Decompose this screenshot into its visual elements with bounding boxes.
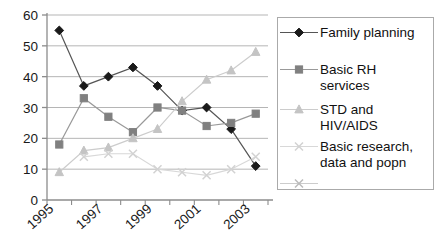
series-1-point-2 (105, 113, 112, 120)
series-1-point-0 (56, 141, 63, 148)
x-axis-tick-label: 1999 (122, 201, 154, 232)
legend-item-3[interactable]: Basic research, data and popn (278, 139, 433, 170)
series-0-point-3 (129, 63, 138, 72)
series-2-point-7 (227, 66, 235, 74)
series-0-point-2 (104, 72, 113, 81)
legend-item-2[interactable]: STD and HIV/AIDS (278, 102, 433, 133)
series-3-point-7 (252, 153, 260, 161)
legend-label-1: Basic RH services (320, 62, 376, 93)
series-1-point-4 (154, 104, 161, 111)
series-2-point-5 (178, 97, 186, 105)
legend-label-3: Basic research, data and popn (320, 139, 413, 170)
chart-legend: Family planningBasic RH servicesSTD and … (277, 17, 434, 190)
series-2-point-8 (252, 47, 260, 55)
series-line-2 (59, 52, 255, 172)
series-1-point-7 (228, 119, 235, 126)
y-axis-tick-label: 20 (23, 131, 38, 146)
legend-label-0: Family planning (320, 25, 415, 41)
legend-item-4[interactable] (278, 176, 433, 191)
x-axis-tick-label: 1995 (24, 201, 56, 232)
y-axis-tick-label: 10 (23, 162, 38, 177)
legend-marker-icon-0 (278, 25, 320, 40)
x-axis-tick-label: 1997 (73, 201, 105, 232)
legend-marker-icon-4 (278, 176, 320, 191)
legend-marker-icon-1 (278, 62, 320, 77)
y-axis-tick-label: 50 (23, 39, 38, 54)
x-axis-tick-label: 2003 (220, 201, 252, 232)
y-axis-tick-label: 40 (23, 70, 38, 85)
series-line-3 (84, 154, 256, 176)
series-1-point-6 (203, 122, 210, 129)
series-line-0 (59, 30, 255, 166)
series-0-point-0 (55, 26, 64, 35)
chart-container: 010203040506019951997199920012003 Family… (0, 0, 440, 247)
legend-label-2: STD and HIV/AIDS (320, 102, 378, 133)
legend-item-0[interactable]: Family planning (278, 25, 433, 41)
series-1-point-1 (80, 95, 87, 102)
legend-item-1[interactable]: Basic RH services (278, 62, 433, 93)
legend-marker-icon-2 (278, 102, 320, 117)
series-1-point-5 (178, 107, 185, 114)
x-axis-tick-label: 2001 (171, 201, 203, 232)
series-1-point-8 (252, 110, 259, 117)
y-axis-tick-label: 60 (23, 8, 38, 23)
y-axis-tick-label: 30 (23, 101, 38, 116)
y-axis-tick-label: 0 (30, 193, 38, 208)
legend-marker-icon-3 (278, 139, 320, 154)
series-0-point-1 (79, 82, 88, 91)
